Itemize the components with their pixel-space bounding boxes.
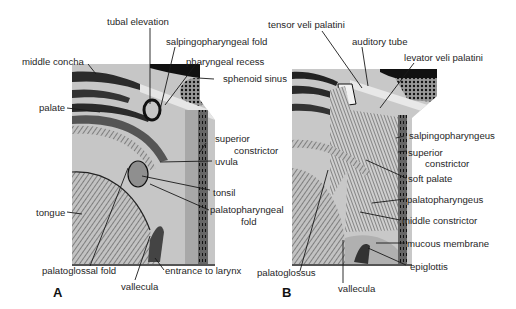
label-vallecula-a: vallecula bbox=[121, 281, 158, 292]
label-entrance-to-larynx: entrance to larynx bbox=[165, 265, 241, 276]
panel-a-illustration bbox=[72, 64, 217, 270]
label-palatoglossus: palatoglossus bbox=[257, 267, 316, 278]
label-vallecula-b: vallecula bbox=[338, 283, 375, 294]
label-palatopharyngeus: palatopharyngeus bbox=[407, 194, 483, 205]
panel-letter-b: B bbox=[282, 285, 291, 300]
label-salpingopharyngeus: salpingopharyngeus bbox=[409, 130, 495, 141]
label-palate: palate bbox=[39, 102, 65, 113]
label-levator-veli-palatini: levator veli palatini bbox=[404, 52, 483, 63]
panel-letter-a: A bbox=[53, 285, 62, 300]
label-superior-constrictor-a-line2: constrictor bbox=[234, 145, 278, 156]
label-epiglottis: epiglottis bbox=[410, 261, 448, 272]
label-middle-concha: middle concha bbox=[22, 56, 84, 67]
label-sphenoid-sinus: sphenoid sinus bbox=[223, 73, 287, 84]
label-tonsil: tonsil bbox=[213, 187, 235, 198]
label-tubal-elevation: tubal elevation bbox=[107, 16, 169, 27]
label-auditory-tube: auditory tube bbox=[352, 36, 407, 47]
label-pharyngeal-recess: pharyngeal recess bbox=[186, 56, 264, 67]
label-mucous-membrane: mucous membrane bbox=[407, 238, 489, 249]
label-salpingopharyngeal-fold: salpingopharyngeal fold bbox=[166, 36, 267, 47]
label-superior-constrictor-a-line1: superior bbox=[215, 133, 250, 144]
label-superior-constrictor-b-line2: constrictor bbox=[425, 158, 469, 169]
label-tongue: tongue bbox=[36, 207, 65, 218]
anatomy-figure: tubal elevation salpingopharyngeal fold … bbox=[0, 0, 516, 309]
label-palatopharyngeal-fold-line2: fold bbox=[241, 216, 256, 227]
label-palatoglossal-fold: palatoglossal fold bbox=[42, 265, 116, 276]
label-superior-constrictor-b-line1: superior bbox=[408, 147, 443, 158]
label-soft-palate: soft palate bbox=[408, 173, 452, 184]
label-middle-constrictor: middle constrictor bbox=[402, 215, 477, 226]
label-palatopharyngeal-fold-line1: palatopharyngeal bbox=[210, 204, 284, 215]
label-tensor-veli-palatini: tensor veli palatini bbox=[268, 19, 345, 30]
label-uvula: uvula bbox=[215, 156, 238, 167]
